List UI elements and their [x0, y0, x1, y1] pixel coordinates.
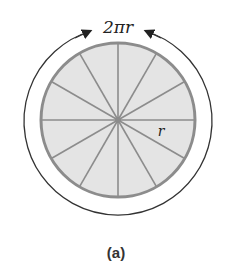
center-point	[115, 117, 121, 123]
figure-caption: (a)	[107, 244, 125, 261]
circumference-label: 2πr	[102, 17, 134, 37]
circle-diagram: 2πr r (a)	[0, 0, 232, 270]
